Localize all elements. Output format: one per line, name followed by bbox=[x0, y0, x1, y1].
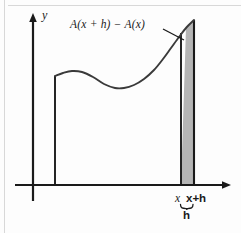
x-plus-h-tick-label: x+h bbox=[186, 193, 206, 205]
y-axis-arrow-icon bbox=[29, 13, 37, 22]
x-axis-arrow-icon bbox=[222, 181, 231, 189]
area-increment-label: A(x + h) − A(x) bbox=[70, 19, 145, 31]
brace-width-label: h bbox=[183, 210, 190, 222]
figure-container: A(x + h) − A(x) y x x+h h bbox=[0, 0, 241, 233]
shaded-area-increment-strip bbox=[181, 20, 194, 185]
x-tick-label: x bbox=[175, 193, 180, 205]
width-brace bbox=[181, 205, 194, 209]
y-axis-label: y bbox=[42, 9, 47, 21]
